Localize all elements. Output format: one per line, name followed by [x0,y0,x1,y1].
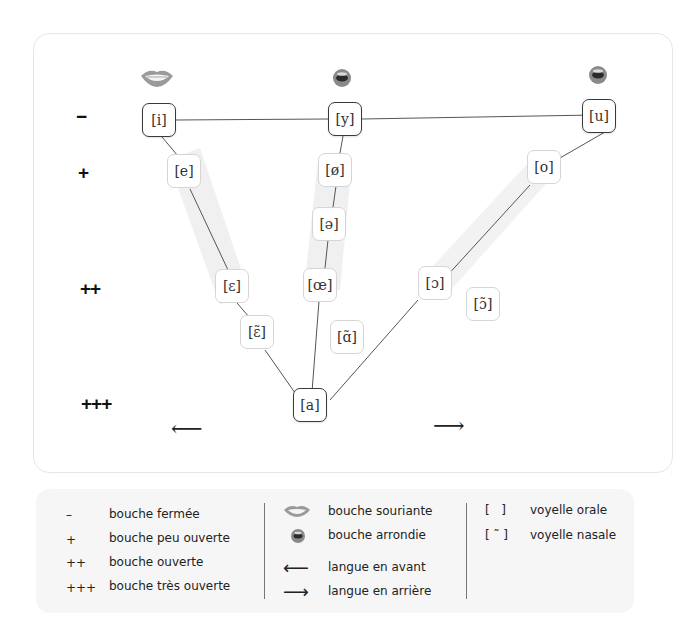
row-label-closed: − [76,106,86,128]
smiling-mouth-icon [139,68,175,88]
legend-label-slightly-open: bouche peu ouverte [109,531,230,545]
legend-label-closed: bouche fermée [109,507,200,521]
legend-symbol-closed: – [66,508,72,522]
vowel-nasal-open-o: [ɔ̃] [466,287,500,321]
legend-label-back-tongue: langue en arrière [328,584,431,598]
legend-panel: – bouche fermée + bouche peu ouverte ++ … [36,489,634,613]
vowel-e: [e] [167,154,201,188]
arrow-right-back-tongue: ⟶ [433,413,465,438]
legend-symbol-very-open: +++ [66,581,96,595]
legend-label-smiling: bouche souriante [328,504,432,518]
legend-symbol-open: ++ [66,556,86,570]
legend-symbol-oral: [ ] [485,503,506,517]
legend-rounded-mouth-icon [290,528,306,544]
legend-symbol-slightly-open: + [66,533,76,547]
vowel-o-slash: [ø] [318,153,352,187]
legend-arrow-right-icon: ⟶ [283,581,309,602]
row-label-slightly-open: + [78,162,88,184]
vowel-y: [y] [328,102,362,136]
legend-divider-1 [264,503,265,599]
legend-label-rounded: bouche arrondie [328,528,426,542]
legend-smiling-mouth-icon [283,504,311,518]
legend-symbol-nasal: [ ˜ ] [485,528,508,542]
legend-label-open: bouche ouverte [109,555,203,569]
legend-label-front-tongue: langue en avant [328,560,426,574]
rounded-mouth-icon-center [331,67,353,89]
arrow-left-front-tongue: ⟵ [171,416,203,441]
row-label-very-open: +++ [81,393,111,415]
vowel-open-e: [ɛ] [215,269,249,303]
legend-arrow-left-icon: ⟵ [283,557,309,578]
vowel-nasal-open-e: [ɛ̃] [240,315,274,349]
legend-divider-2 [466,503,467,599]
legend-label-oral: voyelle orale [530,503,607,517]
rounded-mouth-icon-right [587,64,609,86]
legend-label-nasal: voyelle nasale [530,528,616,542]
vowel-nasal-a: [ɑ̃] [330,320,364,354]
row-label-open: ++ [80,278,100,300]
vowel-oe: [œ] [303,268,337,302]
vowel-open-o: [ɔ] [418,266,452,300]
legend-label-very-open: bouche très ouverte [109,579,230,593]
vowel-u: [u] [582,99,616,133]
vowel-o: [o] [527,150,561,184]
vowel-schwa: [ə] [312,207,346,241]
vowel-a: [a] [293,388,327,422]
vowel-i: [i] [142,103,176,137]
